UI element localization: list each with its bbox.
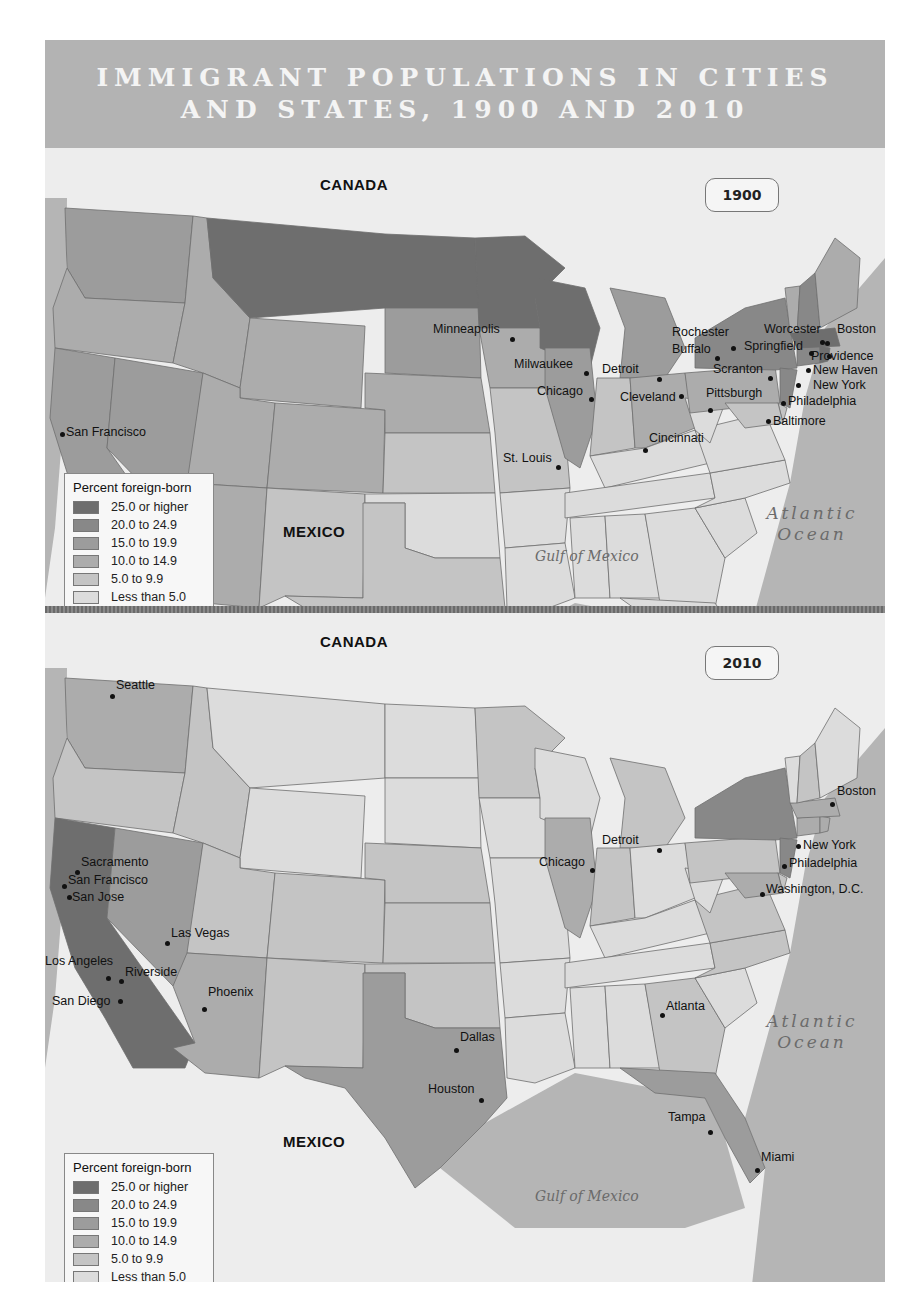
- legend-item: 10.0 to 14.9: [73, 1232, 205, 1250]
- city-marker: [781, 401, 786, 406]
- city-label: Cleveland: [620, 390, 676, 404]
- city-marker: [660, 1013, 665, 1018]
- city-marker: [590, 868, 595, 873]
- city-marker: [825, 341, 830, 346]
- legend-title: Percent foreign-born: [73, 1160, 205, 1175]
- city-label: San Francisco: [66, 425, 146, 439]
- city-marker: [454, 1048, 459, 1053]
- water-label-atlantic: AtlanticOcean: [757, 1011, 867, 1053]
- legend-swatch: [73, 501, 99, 514]
- city-label: St. Louis: [503, 451, 552, 465]
- city-label: San Francisco: [68, 873, 148, 887]
- city-label: Sacramento: [81, 855, 148, 869]
- city-marker: [556, 465, 561, 470]
- state-co: [267, 403, 385, 493]
- state-ar: [500, 958, 570, 1018]
- city-label: Miami: [761, 1150, 794, 1164]
- legend-swatch: [73, 537, 99, 550]
- city-marker: [584, 371, 589, 376]
- city-marker: [119, 979, 124, 984]
- city-label: Milwaukee: [514, 357, 573, 371]
- city-marker: [165, 941, 170, 946]
- map-2010: CANADA MEXICO AtlanticOcean Gulf of Mexi…: [45, 613, 885, 1282]
- title-line-1: IMMIGRANT POPULATIONS IN CITIES: [96, 62, 833, 94]
- city-marker: [768, 376, 773, 381]
- city-label: Buffalo: [672, 342, 711, 356]
- legend-label: 15.0 to 19.9: [111, 536, 177, 550]
- city-marker: [479, 1098, 484, 1103]
- legend-item: 10.0 to 14.9: [73, 552, 205, 570]
- title-band: IMMIGRANT POPULATIONS IN CITIES AND STAT…: [45, 40, 885, 148]
- state-nm: [259, 488, 365, 606]
- city-marker: [510, 337, 515, 342]
- city-marker: [731, 346, 736, 351]
- city-marker: [796, 383, 801, 388]
- city-label: Los Angeles: [45, 954, 113, 968]
- year-badge: 2010: [705, 646, 779, 680]
- city-label: Riverside: [125, 965, 177, 979]
- city-label: San Diego: [52, 994, 110, 1008]
- state-ar: [500, 488, 570, 548]
- state-sd: [385, 778, 481, 848]
- legend-label: Less than 5.0: [111, 590, 186, 604]
- city-label: Phoenix: [208, 985, 253, 999]
- city-marker: [657, 848, 662, 853]
- city-marker: [589, 397, 594, 402]
- city-label: Las Vegas: [171, 926, 229, 940]
- city-label: Chicago: [539, 855, 585, 869]
- city-label: Atlanta: [666, 999, 705, 1013]
- city-label: Philadelphia: [788, 394, 856, 408]
- state-wy: [240, 318, 365, 408]
- city-label: Rochester: [672, 325, 729, 339]
- city-marker: [830, 802, 835, 807]
- city-label: Minneapolis: [433, 322, 500, 336]
- legend-swatch: [73, 1217, 99, 1230]
- water-label-atlantic: AtlanticOcean: [757, 503, 867, 545]
- city-marker: [62, 884, 67, 889]
- city-marker: [760, 892, 765, 897]
- legend-swatch: [73, 591, 99, 604]
- legend-item: 25.0 or higher: [73, 498, 205, 516]
- legend: Percent foreign-born 25.0 or higher20.0 …: [64, 1153, 214, 1282]
- city-label: Boston: [837, 784, 876, 798]
- city-marker: [118, 999, 123, 1004]
- legend-swatch: [73, 1181, 99, 1194]
- city-label: Detroit: [602, 833, 639, 847]
- title-line-2: AND STATES, 1900 AND 2010: [181, 94, 750, 126]
- state-wa: [65, 678, 193, 773]
- legend-item: 15.0 to 19.9: [73, 1214, 205, 1232]
- city-label: New York: [813, 378, 866, 392]
- city-label: Washington, D.C.: [766, 882, 864, 896]
- year-badge: 1900: [705, 178, 779, 212]
- state-nm: [259, 958, 365, 1078]
- water-label-gulf-of-mexico: Gulf of Mexico: [535, 548, 639, 564]
- legend-item: 20.0 to 24.9: [73, 516, 205, 534]
- legend-item: 25.0 or higher: [73, 1178, 205, 1196]
- city-label: Pittsburgh: [706, 386, 762, 400]
- city-marker: [806, 368, 811, 373]
- legend-item: Less than 5.0: [73, 1268, 205, 1282]
- legend-label: 5.0 to 9.9: [111, 572, 163, 586]
- legend-swatch: [73, 519, 99, 532]
- city-marker: [679, 394, 684, 399]
- state-wy: [240, 788, 365, 878]
- city-label: Worcester: [764, 322, 821, 336]
- city-marker: [60, 432, 65, 437]
- state-wa: [65, 208, 193, 303]
- city-label: Detroit: [602, 362, 639, 376]
- city-label: Boston: [837, 322, 876, 336]
- map-1900: CANADA MEXICO AtlanticOcean Gulf of Mexi…: [45, 148, 885, 606]
- legend-label: 20.0 to 24.9: [111, 1198, 177, 1212]
- city-marker: [202, 1007, 207, 1012]
- city-label: Dallas: [460, 1030, 495, 1044]
- state-nd: [385, 704, 479, 778]
- legend-label: 15.0 to 19.9: [111, 1216, 177, 1230]
- legend-label: 20.0 to 24.9: [111, 518, 177, 532]
- water-label-gulf-of-mexico: Gulf of Mexico: [535, 1188, 639, 1204]
- legend-swatch: [73, 555, 99, 568]
- state-nd: [385, 234, 479, 308]
- city-marker: [715, 356, 720, 361]
- legend-label: 10.0 to 14.9: [111, 554, 177, 568]
- city-label: Scranton: [713, 362, 763, 376]
- city-marker: [766, 419, 771, 424]
